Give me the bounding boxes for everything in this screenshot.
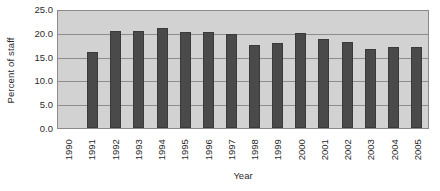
y-axis-tick-label: 5.0 [15, 100, 53, 110]
x-axis-tick-cell: 2004 [383, 131, 406, 167]
bar-cell [197, 11, 220, 128]
x-axis-tick-cell: 2003 [359, 131, 382, 167]
bar-cell [104, 11, 127, 128]
bar-cell [174, 11, 197, 128]
x-axis-tick-label: 2000 [296, 139, 306, 160]
bar-cell [266, 11, 289, 128]
y-axis-tick-label: 20.0 [15, 29, 53, 39]
x-axis-tick-labels: 1990199119921993199419951996199719981999… [57, 131, 429, 167]
bar-cell [243, 11, 266, 128]
bar [388, 47, 399, 128]
x-axis-tick-cell: 2001 [313, 131, 336, 167]
x-axis-tick-label: 1997 [227, 139, 237, 160]
x-axis-tick-cell: 1999 [266, 131, 289, 167]
x-axis-tick-label: 1996 [203, 139, 213, 160]
x-axis-tick-label: 2004 [389, 139, 399, 160]
x-axis-tick-label: 2003 [366, 139, 376, 160]
bar [411, 47, 422, 128]
x-axis-tick-cell: 1997 [220, 131, 243, 167]
y-axis-tick-label: 10.0 [15, 77, 53, 87]
x-axis-tick-cell: 2005 [406, 131, 429, 167]
bar [318, 39, 329, 128]
x-axis-tick-cell: 2000 [290, 131, 313, 167]
x-axis-title: Year [57, 170, 429, 181]
x-axis-tick-label: 2005 [413, 139, 423, 160]
bar-cell [336, 11, 359, 128]
bar [203, 32, 214, 128]
x-axis-tick-label: 2002 [343, 139, 353, 160]
x-axis-tick-label: 1995 [180, 139, 190, 160]
x-axis-tick-cell: 1990 [57, 131, 80, 167]
bar [226, 34, 237, 128]
bar-series [58, 11, 428, 128]
y-axis-tick-label: 25.0 [15, 5, 53, 15]
bar [133, 31, 144, 128]
x-axis-tick-label: 1991 [87, 139, 97, 160]
x-axis-tick-cell: 1995 [173, 131, 196, 167]
x-axis-tick-cell: 1991 [80, 131, 103, 167]
x-axis-tick-cell: 1993 [127, 131, 150, 167]
x-axis-tick-cell: 1994 [150, 131, 173, 167]
y-axis-tick-labels: 0.05.010.015.020.025.0 [18, 8, 56, 128]
bar [272, 43, 283, 128]
y-axis-title-text: Percent of staff [5, 37, 16, 103]
bar [110, 31, 121, 128]
x-axis-tick-label: 1998 [250, 139, 260, 160]
y-axis-tick-label: 15.0 [15, 53, 53, 63]
bar-cell [405, 11, 428, 128]
bar [180, 32, 191, 128]
x-axis-tick-label: 1990 [64, 139, 74, 160]
bar [365, 49, 376, 128]
plot-area [57, 10, 429, 129]
x-axis-tick-label: 1999 [273, 139, 283, 160]
plot-inner [58, 11, 428, 128]
y-axis-tick-label: 0.0 [15, 124, 53, 134]
x-axis-tick-cell: 1996 [197, 131, 220, 167]
bar-cell [81, 11, 104, 128]
bar-cell [151, 11, 174, 128]
x-axis-tick-label: 1992 [110, 139, 120, 160]
bar-cell [312, 11, 335, 128]
bar-cell [127, 11, 150, 128]
bar-cell [289, 11, 312, 128]
bar-cell [58, 11, 81, 128]
x-axis-tick-label: 1994 [157, 139, 167, 160]
bar-cell [220, 11, 243, 128]
x-axis-tick-label: 1993 [134, 139, 144, 160]
bar [87, 52, 98, 128]
bar [342, 42, 353, 128]
x-axis-tick-cell: 1992 [104, 131, 127, 167]
bar-cell [382, 11, 405, 128]
bar [249, 45, 260, 128]
x-axis-tick-cell: 2002 [336, 131, 359, 167]
y-axis-title: Percent of staff [0, 0, 20, 140]
x-axis-tick-cell: 1998 [243, 131, 266, 167]
bar [157, 28, 168, 128]
x-axis-tick-label: 2001 [320, 139, 330, 160]
bar-cell [359, 11, 382, 128]
bar-chart-figure: Percent of staff 0.05.010.015.020.025.0 … [0, 0, 440, 191]
bar [295, 33, 306, 128]
